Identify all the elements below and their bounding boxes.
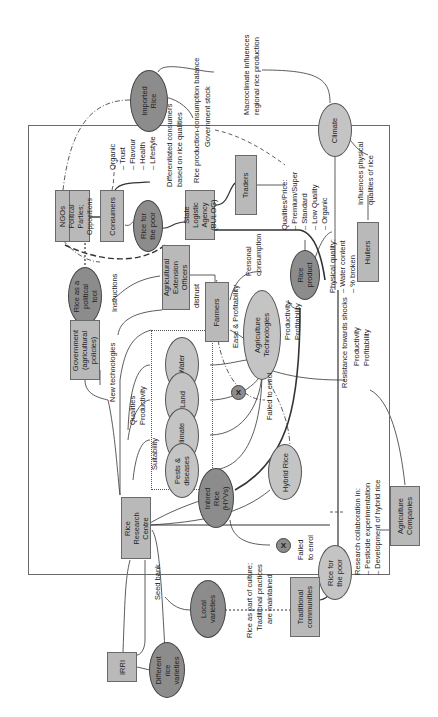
qp-organic: – Organic (320, 197, 329, 230)
irri-box[interactable]: IRRI (107, 652, 137, 682)
agri-extension-officers-label: Agricultural Extension Officers (163, 259, 190, 297)
qp-heading: Qualities/Price: (280, 180, 289, 230)
productivity-text: Productivity (138, 386, 147, 425)
differentiated-line-1: Differentiated consumers (165, 104, 174, 187)
farmers-label: Farmers (213, 298, 222, 326)
agriculture-technologies-label: Agriculture Technologies (253, 313, 271, 357)
qualities-text: Qualities (128, 396, 137, 425)
resistance-line-3: Profitability (362, 329, 371, 366)
consumers-label: Consumers (108, 197, 117, 235)
traders-label: Traders (242, 172, 251, 198)
quality-organic: Organic (108, 144, 117, 170)
pests-diseases-label: Pests & diseases (173, 455, 191, 487)
local-varieties-label: Local varieties (199, 592, 217, 626)
rice-for-poor-bottom-label: Rice for the poor (326, 557, 344, 589)
suitability-text: Suitability (150, 438, 159, 470)
personal-line-2: consumption (254, 233, 263, 276)
ngos-label: NGOs (58, 206, 67, 227)
traders-box[interactable]: Traders (235, 155, 257, 215)
failed-enrol-x-icon-2: X (276, 538, 291, 553)
quality-trust: – Trust (118, 147, 127, 170)
traditional-communities-box[interactable]: Traditional communities (290, 577, 320, 637)
rice-research-centre-box[interactable]: Rice Research Centre (121, 497, 151, 559)
personal-line-1: Personal (244, 246, 253, 276)
pests-diseases-node[interactable]: Pests & diseases (165, 443, 199, 498)
distrust-text: distrust (192, 284, 201, 308)
culture-line-3: are maintained (265, 574, 274, 624)
inbred-rice-node[interactable]: Inbred Rice (HYVs) (198, 468, 234, 528)
state-logistic-agency-box[interactable]: State Logistic Agency (BULOG) (185, 190, 215, 240)
new-technologies-text: New technologies (108, 343, 117, 402)
climate-label: Climate (331, 117, 340, 142)
collab-heading: Research collaboration in: (353, 488, 362, 575)
state-logistic-agency-label: State Logistic Agency (BULOG) (182, 199, 218, 230)
instructions-text: Instructions (110, 274, 119, 312)
hybrid-rice-label: Hybrid Rice (281, 453, 290, 492)
rice-product-label: Rice product (296, 261, 314, 289)
rice-political-tool-node[interactable]: Rice as a political tool (68, 267, 102, 325)
agriculture-technologies-node[interactable]: Agriculture Technologies (243, 290, 281, 380)
different-rice-varieties-label: Different rice varieties (154, 653, 181, 687)
resistance-line-1: Resistance towards shocks (340, 297, 349, 388)
culture-line-1: Rice as part of culture; (245, 563, 254, 638)
seed-bank-text: Seed bank (153, 564, 162, 600)
consumers-box[interactable]: Consumers (100, 190, 124, 242)
hybrid-rice-node[interactable]: Hybrid Rice (268, 444, 302, 500)
imported-rice-label: Imported Rice (140, 86, 158, 116)
culture-line-2: Traditional practices (255, 564, 264, 631)
rice-for-poor-top-label: Rice for the poor (139, 212, 157, 240)
ease-profitability-text: Ease & Profitability (231, 285, 240, 348)
qp-low: – Low Quality (310, 185, 319, 230)
failed-enrol-text-1: Failed to enrol (265, 372, 274, 420)
differentiated-line-2: based on rice qualities (175, 112, 184, 187)
resistance-line-2: Productivity (352, 327, 361, 366)
government-box[interactable]: Government (agricultural policies) (70, 320, 100, 380)
ngos-parties-box[interactable]: NGOs Political Parties; Oppositions (55, 190, 90, 242)
failed-enrol-x-icon-1: X (231, 385, 246, 400)
rice-balance-line-1: Rice production-consumption balance (192, 58, 201, 184)
macroclimate-line-2: regional rice production (252, 37, 261, 115)
qp-premium: – Premium/Super (290, 172, 299, 230)
collab-hybrid: – Development of hybrid rice (373, 480, 382, 575)
local-varieties-node[interactable]: Local varieties (190, 580, 226, 638)
hullers-label: Hullers (364, 240, 373, 263)
government-stock-line: Government stock (203, 86, 212, 147)
climate-node[interactable]: Climate (318, 103, 352, 157)
irri-label: IRRI (118, 660, 127, 675)
failed-enrol-text-2b: to enrol (306, 535, 315, 560)
pq-broken: – % broken (348, 255, 357, 293)
rice-for-poor-top-node[interactable]: Rice for the poor (133, 200, 163, 252)
macroclimate-line-1: Macroclimate influences (242, 35, 251, 115)
agriculture-companies-box[interactable]: Agriculture Companies (390, 486, 420, 546)
influences-line-1: Influences physical (356, 142, 365, 205)
government-label: Government (agricultural policies) (72, 329, 99, 370)
imported-rice-node[interactable]: Imported Rice (130, 70, 168, 132)
quality-lifestyle: – Lifestyle (148, 136, 157, 170)
quality-health: – Health (138, 142, 147, 170)
collab-pesticide: – Pesticide experimentation (363, 483, 372, 575)
different-rice-varieties-node[interactable]: Different rice varieties (149, 642, 185, 698)
farmers-box[interactable]: Farmers (205, 282, 229, 342)
rice-system-diagram: Imported Rice Climate NGOs Political Par… (0, 0, 438, 717)
quality-flavour: – Flavour (128, 139, 137, 170)
x-mark-label-1: X (236, 388, 241, 397)
rice-for-poor-bottom-node[interactable]: Rice for the poor (318, 545, 352, 600)
hullers-box[interactable]: Hullers (357, 222, 379, 282)
x-mark-label-2: X (281, 541, 286, 550)
political-parties-label: Political Parties; Oppositions (67, 198, 94, 235)
rice-research-centre-label: Rice Research Centre (123, 512, 150, 544)
rice-political-tool-label: Rice as a political tool (72, 280, 99, 312)
inbred-rice-label: Inbred Rice (HYVs) (203, 481, 230, 515)
influences-line-2: qualities of rice (366, 155, 375, 205)
pp-line-2: Profitability (293, 303, 302, 340)
traditional-communities-label: Traditional communities (296, 586, 314, 628)
rice-product-node[interactable]: Rice product (290, 250, 320, 300)
agriculture-companies-label: Agriculture Companies (396, 497, 414, 535)
pq-heading: Physical quality: (328, 239, 337, 293)
pp-line-1: Productivity (283, 301, 292, 340)
land-label: Land (178, 391, 187, 408)
qp-standard: – Standard (300, 193, 309, 230)
agri-extension-officers-box[interactable]: Agricultural Extension Officers (162, 245, 190, 310)
pq-water: – Water content (338, 240, 347, 293)
failed-enrol-text-2a: Failed (296, 540, 305, 560)
